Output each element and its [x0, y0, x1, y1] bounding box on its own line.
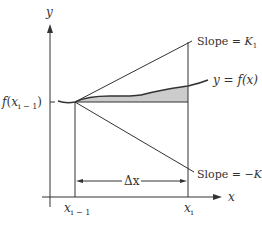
upper-slope-label: Slope = K1	[197, 35, 257, 50]
lipschitz-bound-diagram: y x f(xi − 1) xi − 1 xi Δx y = f(x) Slop…	[0, 0, 262, 225]
point-label: f(xi − 1)	[1, 95, 42, 111]
lower-slope-label: Slope = −K1	[197, 168, 262, 183]
delta-x-arrowhead-right-icon	[180, 179, 187, 183]
delta-x-label: Δx	[124, 174, 140, 188]
x-axis-label: x	[228, 190, 235, 204]
x-axis-arrow-icon	[213, 194, 222, 200]
x-prev-label: xi − 1	[64, 201, 90, 217]
y-axis-label: y	[45, 5, 53, 19]
curve-label: y = f(x)	[212, 73, 258, 87]
lower-slope-line	[75, 102, 194, 172]
y-axis-arrow-icon	[47, 24, 53, 33]
delta-x-arrowhead-left-icon	[76, 179, 83, 183]
x-curr-label: xi	[184, 201, 194, 217]
